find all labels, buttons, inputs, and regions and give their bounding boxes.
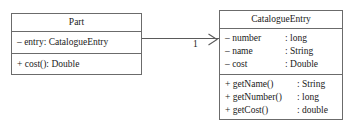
operation-get-number: + getNumber() : long	[225, 91, 342, 104]
class-box-part[interactable]: Part – entry: CatalogueEntry + cost(): D…	[11, 13, 142, 75]
operation-get-name: + getName() : String	[225, 78, 342, 91]
operation-get-number-name: + getNumber()	[225, 91, 297, 104]
attribute-cost-type: : Double	[285, 58, 318, 71]
operations-compartment-part: + cost(): Double	[12, 53, 141, 74]
operation-get-cost-type: : double	[297, 104, 328, 117]
class-name-catalogue-entry: CatalogueEntry	[220, 11, 342, 28]
uml-class-diagram-canvas: Part – entry: CatalogueEntry + cost(): D…	[0, 0, 358, 129]
attribute-cost: – cost : Double	[225, 58, 342, 71]
attribute-number-type: : long	[285, 32, 307, 45]
operation-cost: + cost(): Double	[17, 58, 141, 71]
attributes-compartment-part: – entry: CatalogueEntry	[12, 31, 141, 53]
class-box-catalogue-entry[interactable]: CatalogueEntry – number : long – name : …	[219, 10, 343, 120]
attribute-cost-name: – cost	[225, 58, 285, 71]
attribute-number-name: – number	[225, 32, 285, 45]
attribute-name-type: : String	[285, 45, 313, 58]
class-name-part: Part	[12, 14, 141, 31]
operation-get-cost: + getCost() : double	[225, 104, 342, 117]
attribute-entry: – entry: CatalogueEntry	[17, 36, 141, 49]
operation-get-cost-name: + getCost()	[225, 104, 297, 117]
operations-compartment-catalogue-entry: + getName() : String + getNumber() : lon…	[220, 74, 342, 119]
association-multiplicity-target: 1	[193, 40, 198, 50]
attributes-compartment-catalogue-entry: – number : long – name : String – cost :…	[220, 28, 342, 74]
attribute-name-name: – name	[225, 45, 285, 58]
operation-get-name-type: : String	[297, 78, 325, 91]
attribute-name: – name : String	[225, 45, 342, 58]
attribute-number: – number : long	[225, 32, 342, 45]
operation-get-name-name: + getName()	[225, 78, 297, 91]
operation-get-number-type: : long	[297, 91, 319, 104]
open-arrowhead-icon	[207, 32, 219, 45]
